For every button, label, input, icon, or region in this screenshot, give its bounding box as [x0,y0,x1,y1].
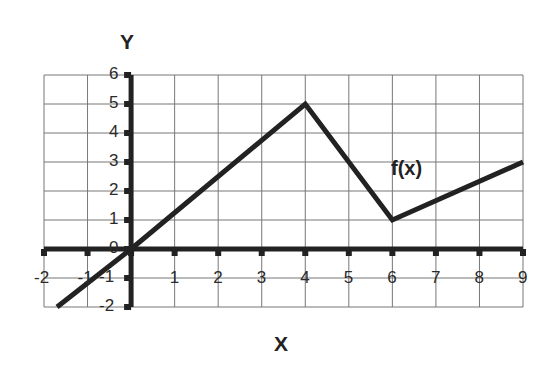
plot-area [0,0,550,387]
x-tick-label: 4 [300,268,309,288]
y-tick-label: 4 [109,122,118,142]
y-tick-label: 5 [109,93,118,113]
x-tick-label: 8 [474,268,483,288]
x-tick-label: 5 [344,268,353,288]
y-axis-title: Y [120,30,134,54]
x-tick-label: 7 [431,268,440,288]
y-tick-label: 6 [109,64,118,84]
x-axis-title: X [274,332,288,356]
y-tick-label: -1 [99,267,114,287]
y-tick-label: 1 [109,209,118,229]
x-tick-label: 9 [518,268,527,288]
x-tick-label: -2 [34,268,49,288]
x-tick-label: 1 [170,268,179,288]
x-tick-label: 6 [387,268,396,288]
x-tick-label: 3 [257,268,266,288]
x-tick-label: -1 [78,268,93,288]
y-tick-label: 3 [109,151,118,171]
y-tick-label: 2 [109,180,118,200]
y-tick-label: 0 [109,238,118,258]
function-label: f(x) [391,157,422,180]
x-tick-label: 2 [213,268,222,288]
y-tick-label: -2 [99,296,114,316]
